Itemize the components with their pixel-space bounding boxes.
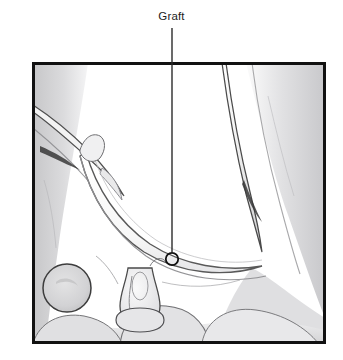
anatomical-illustration xyxy=(0,0,343,360)
round-mass xyxy=(43,264,91,312)
figure-root: Graft xyxy=(0,0,343,360)
panel-interior xyxy=(33,63,325,343)
anastomosis-collar xyxy=(116,308,164,332)
